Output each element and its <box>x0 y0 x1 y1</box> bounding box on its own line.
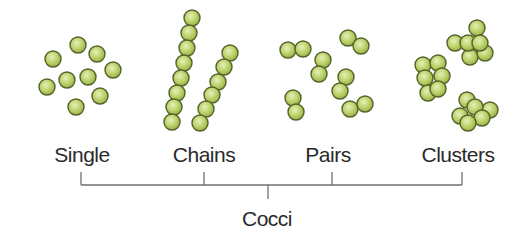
coccus-cell-icon <box>45 51 61 67</box>
coccus-cell-icon <box>70 37 86 53</box>
label-pairs: Pairs <box>305 143 350 166</box>
group-chains-cells <box>164 10 238 131</box>
coccus-cell-icon <box>357 96 373 112</box>
group-labels: Single Chains Pairs Clusters Cocci <box>54 143 494 230</box>
coccus-cell-icon <box>176 55 192 71</box>
label-chains: Chains <box>173 143 235 166</box>
coccus-cell-icon <box>89 46 105 62</box>
coccus-cell-icon <box>311 66 327 82</box>
coccus-cell-icon <box>460 115 476 131</box>
coccus-cell-icon <box>295 41 311 57</box>
coccus-cell-icon <box>332 83 348 99</box>
coccus-cells <box>39 10 498 131</box>
coccus-cell-icon <box>181 25 197 41</box>
coccus-cell-icon <box>92 88 108 104</box>
coccus-cell-icon <box>80 69 96 85</box>
coccus-cell-icon <box>285 90 301 106</box>
coccus-cell-icon <box>169 85 185 101</box>
coccus-cell-icon <box>166 99 182 115</box>
classification-bracket <box>81 172 462 199</box>
coccus-cell-icon <box>430 81 446 97</box>
coccus-cell-icon <box>417 70 433 86</box>
coccus-cell-icon <box>288 104 304 120</box>
label-cocci-title: Cocci <box>242 207 292 230</box>
coccus-cell-icon <box>353 38 369 54</box>
coccus-cell-icon <box>184 10 200 26</box>
coccus-cell-icon <box>105 62 121 78</box>
coccus-cell-icon <box>342 101 358 117</box>
coccus-cell-icon <box>469 20 485 36</box>
coccus-cell-icon <box>173 70 189 86</box>
coccus-cell-icon <box>68 99 84 115</box>
group-pairs-cells <box>280 30 373 120</box>
coccus-cell-icon <box>280 42 296 58</box>
coccus-cell-icon <box>216 59 232 75</box>
label-clusters: Clusters <box>421 143 494 166</box>
coccus-cell-icon <box>59 72 75 88</box>
group-clusters-cells <box>415 20 498 131</box>
coccus-cell-icon <box>472 35 488 51</box>
coccus-cell-icon <box>164 114 180 130</box>
coccus-cell-icon <box>192 115 208 131</box>
coccus-cell-icon <box>39 79 55 95</box>
coccus-cell-icon <box>179 40 195 56</box>
label-single: Single <box>54 143 109 166</box>
cocci-diagram: Single Chains Pairs Clusters Cocci <box>0 0 521 245</box>
group-single-cells <box>39 37 121 115</box>
